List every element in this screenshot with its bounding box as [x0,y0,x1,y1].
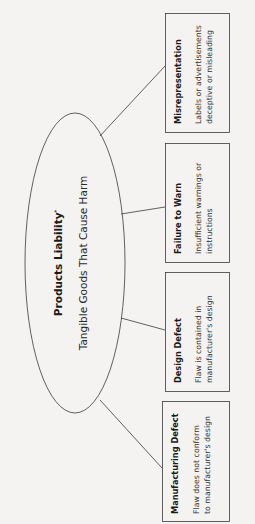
box-title: Failure to Warn [173,183,183,254]
box-description-line2: instructions [205,208,214,254]
center-subtitle: Tangible Goods That Cause Harm [77,176,89,352]
central-sublabel: Tangible Goods That Cause Harm [77,176,89,352]
box-title: Design Defect [173,318,183,383]
connector-failure-to-warn [121,207,165,214]
box-description-line2: to manufacturer's design [203,416,212,514]
box-title: Misrepresentation [173,39,183,124]
category-box-manufacturing-defect: Manufacturing Defect Flaw does not confo… [163,402,230,522]
center-title-mark: * [53,209,59,212]
category-box-design-defect: Design Defect Flaw is contained in manuf… [166,273,230,392]
box-description-line2: deceptive or misleading [205,30,214,124]
category-box-failure-to-warn: Failure to Warn Insufficient warnings or… [166,144,230,263]
products-liability-diagram: Products Liability* Tangible Goods That … [0,0,255,524]
central-label: Products Liability* [52,209,64,316]
box-description-line1: Flaw is contained in [194,306,203,383]
center-title: Products Liability [52,212,64,316]
box-description-line2: manufacturer's design [205,295,214,383]
connector-misrepresentation [100,66,165,136]
box-description-line1: Labels or advertisements [194,25,203,124]
central-ellipse [25,113,125,413]
box-description-line1: Insufficient warnings or [194,162,203,254]
box-description-line1: Flaw does not conform [192,425,201,514]
box-title: Manufacturing Defect [170,413,180,514]
connector-manufacturing-defect [100,400,162,468]
category-box-misrepresentation: Misrepresentation Labels or advertisemen… [166,14,230,133]
svg-text:Products Liability*: Products Liability* [52,209,64,316]
connector-design-defect [121,318,165,330]
